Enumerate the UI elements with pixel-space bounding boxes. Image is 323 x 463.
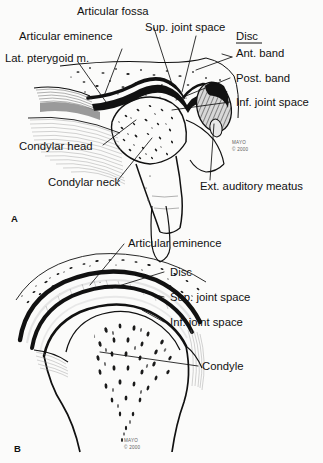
label-condylar-neck: Condylar neck: [48, 176, 121, 188]
panel-label-a: A: [11, 213, 18, 224]
label-disc: Disc: [236, 30, 258, 42]
label-inf-joint-space-b: Inf. joint space: [170, 316, 243, 328]
label-articular-eminence: Articular eminence: [19, 30, 113, 42]
label-articular-fossa: Articular fossa: [77, 5, 149, 17]
label-ant-band: Ant. band: [236, 47, 284, 59]
label-condyle-b: Condyle: [202, 360, 243, 372]
label-post-band: Post. band: [236, 72, 290, 84]
figure-background: [0, 0, 323, 463]
mayo-credit-a-line1: MAYO: [232, 140, 246, 145]
label-condylar-head: Condylar head: [19, 140, 92, 152]
panel-label-b: B: [14, 443, 21, 454]
mayo-credit-b-line2: © 2000: [124, 444, 141, 450]
tmj-anatomy-figure: Articular fossa Sup. joint space Articul…: [0, 0, 323, 463]
label-ext-auditory-meatus: Ext. auditory meatus: [200, 180, 303, 192]
label-articular-eminence-b: Articular eminence: [128, 237, 222, 249]
label-inf-joint-space: Inf. joint space: [236, 96, 309, 108]
mayo-credit-b-line1: MAYO: [124, 438, 138, 443]
label-sup-joint-space: Sup. joint space: [145, 21, 225, 33]
label-disc-b: Disc: [170, 266, 192, 278]
label-lat-pterygoid: Lat. pterygoid m.: [5, 52, 89, 64]
label-sup-joint-space-b: Sup. joint space: [170, 291, 250, 303]
mayo-credit-a-line2: © 2000: [232, 146, 249, 152]
